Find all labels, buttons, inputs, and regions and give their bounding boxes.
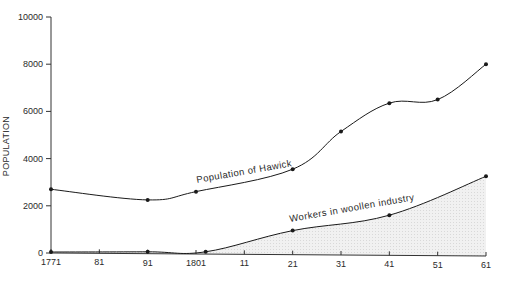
data-point-marker: [387, 213, 391, 217]
x-tick-label: 31: [336, 259, 346, 269]
x-tick-label: 51: [433, 260, 443, 270]
data-point-marker: [146, 198, 150, 202]
y-tick-label: 8000: [23, 59, 43, 69]
data-point-marker: [194, 190, 198, 194]
x-tick-label: 81: [94, 257, 104, 267]
data-point-marker: [484, 174, 488, 178]
population-series-label: Population of Hawick: [195, 157, 292, 185]
population-chart: 0200040006000800010000177181911801112131…: [0, 0, 511, 295]
y-tick-label: 10000: [18, 12, 43, 22]
workers-area-fill: [51, 176, 486, 256]
y-axis-title: POPULATION: [1, 116, 11, 176]
population-line: [51, 64, 486, 200]
y-tick-label: 2000: [23, 201, 43, 211]
data-point-marker: [49, 250, 53, 254]
data-point-marker: [291, 229, 295, 233]
data-point-marker: [339, 129, 343, 133]
data-point-marker: [49, 187, 53, 191]
data-point-marker: [146, 250, 150, 254]
x-tick-label: 1771: [41, 257, 61, 267]
y-tick-label: 6000: [23, 106, 43, 116]
x-tick-label: 91: [143, 258, 153, 268]
data-point-marker: [436, 98, 440, 102]
workers-shaded-area: [51, 176, 486, 256]
x-tick-label: 11: [240, 258, 249, 268]
series-labels: Population of HawickWorkers in woollen i…: [195, 157, 415, 224]
data-point-marker: [484, 62, 488, 66]
y-tick-label: 4000: [23, 154, 43, 164]
x-tick-label: 61: [481, 260, 491, 270]
x-tick-label: 41: [384, 259, 394, 269]
x-tick-label: 21: [288, 259, 298, 269]
data-point-marker: [204, 250, 208, 254]
x-tick-label: 1801: [186, 258, 206, 268]
data-point-marker: [387, 101, 391, 105]
